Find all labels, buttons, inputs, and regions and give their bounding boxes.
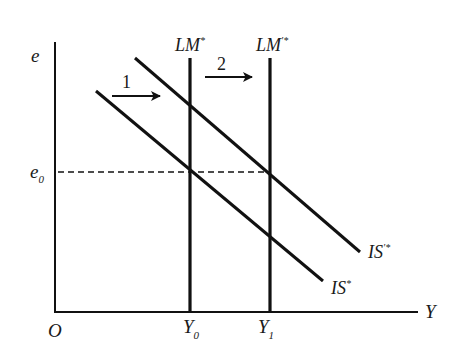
is-initial-line [96,91,323,281]
shift-arrow-1: 1 [112,72,160,96]
y0-label: Y0 [183,316,200,341]
y1-label: Y1 [258,316,274,341]
is-shifted-label: IS′* [367,242,390,262]
arrow-1-label: 1 [122,72,131,92]
lm-shifted-label: LM′* [255,35,288,55]
is-lm-diagram: e Y O e0 LM* LM′* IS* IS′* Y0 Y1 1 2 [0,0,462,362]
is-shifted-line [135,58,360,252]
lm-initial-label: LM* [174,35,205,55]
is-initial-label: IS* [330,278,351,298]
e0-label: e0 [30,161,44,185]
y-axis-label: e [31,45,39,66]
origin-label: O [48,320,62,341]
x-axis-label: Y [425,301,438,322]
shift-arrow-2: 2 [205,54,252,77]
arrow-2-label: 2 [217,54,226,74]
